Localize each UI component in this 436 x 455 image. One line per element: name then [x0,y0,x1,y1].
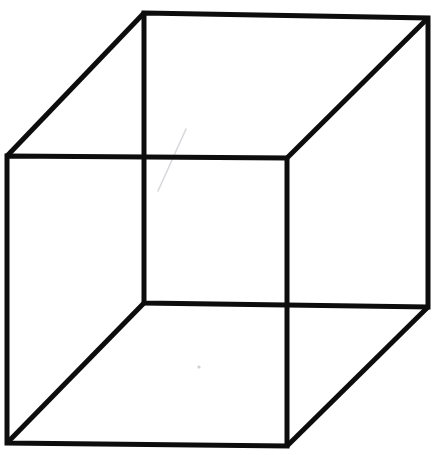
cube-connector-edge-bottom-right [287,307,428,446]
cube-line-drawing-svg [0,0,436,455]
necker-cube-figure [0,0,436,455]
cube-connector-edge-top-right [287,18,428,158]
scan-scratch-artifact-icon [158,129,186,191]
cube-connector-edge-bottom-left [7,303,144,443]
cube-connector-edge-top-left [7,13,144,156]
scan-speck-artifact-icon [197,365,200,368]
